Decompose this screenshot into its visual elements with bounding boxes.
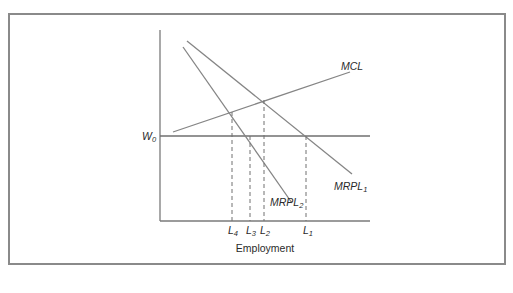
mcl-curve [173,72,350,132]
w0-label: W0 [142,130,157,144]
tick-label-l4: L4 [228,224,238,238]
mrpl2-label: MRPL2 [270,196,304,210]
mrpl2-curve [183,47,292,203]
tick-label-l3: L3 [246,224,257,238]
x-axis-title: Employment [236,242,294,254]
mcl-label: MCL [341,60,363,72]
tick-label-l1: L1 [303,224,313,238]
diagram-canvas: W0 MCL MRPL1 MRPL2 L4 L3 L2 L1 Employmen… [0,0,513,293]
mrpl1-curve [187,41,352,174]
tick-label-l2: L2 [260,224,271,238]
mrpl1-label: MRPL1 [334,180,367,194]
